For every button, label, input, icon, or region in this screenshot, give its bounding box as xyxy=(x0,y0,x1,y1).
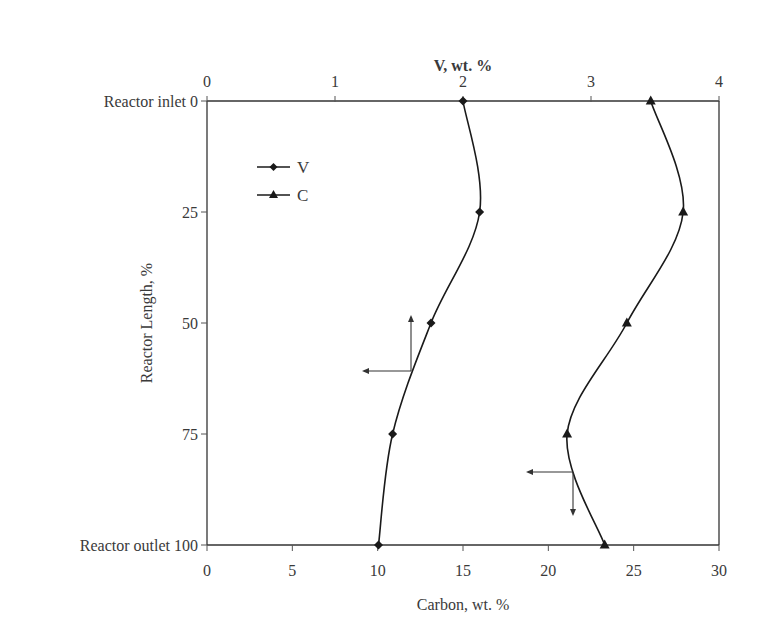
triangle-marker-icon xyxy=(622,318,632,327)
top-axis-title: V, wt. % xyxy=(434,57,492,74)
y-tick-label: Reactor outlet 100 xyxy=(80,537,198,554)
arrowhead-icon xyxy=(570,509,576,516)
bottom-tick-label: 30 xyxy=(711,562,727,579)
y-tick-label: 75 xyxy=(182,426,198,443)
y-axis-title: Reactor Length, % xyxy=(138,263,156,383)
bottom-tick-label: 20 xyxy=(540,562,556,579)
bottom-tick-label: 5 xyxy=(288,562,296,579)
series-layer xyxy=(374,96,688,550)
y-tick-label: 25 xyxy=(182,204,198,221)
bottom-tick-label: 0 xyxy=(203,562,211,579)
bottom-tick-label: 10 xyxy=(370,562,386,579)
diamond-marker-icon xyxy=(374,541,383,550)
series-v xyxy=(374,97,484,550)
c-axis-pointer-arrow xyxy=(526,469,576,516)
arrowhead-icon xyxy=(408,315,414,322)
chart-root: 01234051015202530Reactor inlet 0255075Re… xyxy=(0,0,763,641)
triangle-marker-icon xyxy=(678,207,688,216)
legend-label-c: C xyxy=(297,186,308,205)
diamond-marker-icon xyxy=(459,97,468,106)
legend-label-v: V xyxy=(297,158,310,177)
triangle-marker-icon xyxy=(600,540,610,549)
annotation-arrows xyxy=(362,315,576,516)
triangle-marker-icon xyxy=(269,190,278,198)
series-c xyxy=(562,96,688,549)
top-tick-label: 0 xyxy=(203,73,211,90)
diamond-marker-icon xyxy=(475,208,484,217)
arrowhead-icon xyxy=(526,469,533,475)
v-axis-pointer-arrow xyxy=(362,315,414,374)
triangle-marker-icon xyxy=(562,429,572,438)
top-tick-label: 1 xyxy=(331,73,339,90)
diamond-marker-icon xyxy=(270,163,278,171)
top-tick-label: 4 xyxy=(715,73,723,90)
legend: V C xyxy=(257,158,310,205)
diamond-marker-icon xyxy=(388,430,397,439)
bottom-tick-label: 25 xyxy=(626,562,642,579)
triangle-marker-icon xyxy=(646,96,656,105)
diamond-marker-icon xyxy=(427,319,436,328)
top-tick-label: 2 xyxy=(459,73,467,90)
top-tick-label: 3 xyxy=(587,73,595,90)
bottom-axis-title: Carbon, wt. % xyxy=(417,596,509,613)
y-tick-label: 50 xyxy=(182,315,198,332)
bottom-tick-label: 15 xyxy=(455,562,471,579)
arrowhead-icon xyxy=(362,368,369,374)
y-tick-label: Reactor inlet 0 xyxy=(104,93,198,110)
